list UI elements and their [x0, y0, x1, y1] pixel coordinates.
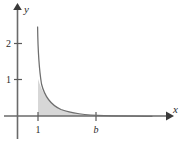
- y-tick-label-2: 2: [6, 38, 11, 49]
- figure-canvas: y x 2 1 1 b: [0, 0, 182, 144]
- x-axis-label: x: [172, 103, 178, 115]
- x-tick-label-1: 1: [36, 124, 41, 135]
- y-axis-arrow-icon: [13, 3, 22, 10]
- calculus-area-figure: y x 2 1 1 b: [0, 0, 182, 144]
- curve-path: [38, 27, 152, 116]
- y-tick-label-1: 1: [6, 74, 11, 85]
- y-axis-label: y: [23, 3, 29, 15]
- x-tick-label-b: b: [94, 124, 99, 135]
